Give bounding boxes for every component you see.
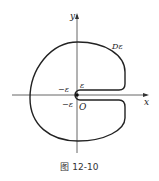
neg-epsilon-bottom-label: −ε — [62, 101, 73, 109]
neg-epsilon-left-label: −ε — [58, 86, 69, 94]
y-axis-label: y — [70, 12, 75, 21]
region-boundary — [30, 42, 125, 141]
origin-label: O — [79, 103, 86, 112]
x-axis-label: x — [144, 98, 149, 107]
y-axis-arrow-icon — [75, 13, 79, 19]
figure-caption: 图 12-10 — [0, 160, 159, 173]
epsilon-label: ε — [80, 82, 84, 90]
diagram-canvas — [0, 0, 159, 181]
region-label: Dε — [112, 43, 123, 51]
origin-point — [75, 93, 79, 97]
